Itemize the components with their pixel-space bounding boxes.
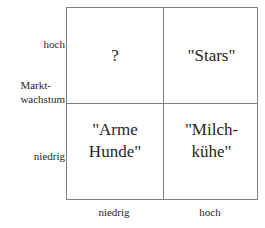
y-axis-title: Markt- wachstum <box>20 79 65 107</box>
quadrant-label: "Stars" <box>188 45 236 67</box>
quadrant-poor-dogs: "Arme Hunde" <box>67 104 163 200</box>
quadrant-question-marks: ? <box>67 8 163 103</box>
quadrant-label: ? <box>111 45 119 67</box>
x-axis-label-high: hoch <box>162 206 258 219</box>
matrix-box: ? "Stars" "Arme Hunde" "Milch- kühe" <box>66 7 258 200</box>
bcg-matrix-figure: hoch Markt- wachstum niedrig ? "Stars" "… <box>0 0 265 228</box>
y-axis-label-low: niedrig <box>34 150 65 163</box>
quadrant-label: "Milch- kühe" <box>185 119 238 163</box>
quadrant-label: "Arme Hunde" <box>89 119 141 163</box>
quadrant-stars: "Stars" <box>164 8 259 103</box>
quadrant-cash-cows: "Milch- kühe" <box>164 104 259 200</box>
y-axis-label-high: hoch <box>44 38 65 51</box>
x-axis-label-low: niedrig <box>66 206 162 219</box>
